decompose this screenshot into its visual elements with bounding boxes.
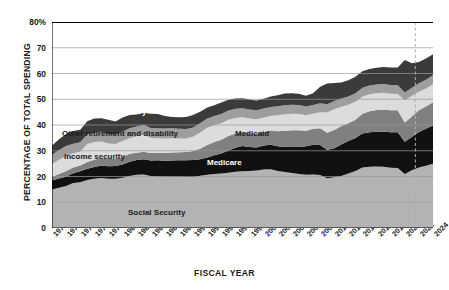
series-label-medicare: Medicare — [207, 158, 242, 167]
stacked-area-svg — [52, 22, 433, 228]
series-label-other-mandatory: Other mandatory — [82, 107, 146, 116]
series-label-other-retirement: Other retirement and disability — [62, 129, 178, 138]
x-tick-label-2024: 2024 — [432, 220, 449, 238]
y-axis-title: PERCENTAGE OF TOTAL SPENDING — [22, 7, 32, 237]
series-label-social-security: Social Security — [128, 208, 185, 217]
series-label-income-security: Income security — [64, 152, 125, 161]
series-label-medicaid: Medicaid — [235, 129, 269, 138]
chart-figure: PERCENTAGE OF TOTAL SPENDING FISCAL YEAR… — [0, 0, 449, 290]
x-axis-title: FISCAL YEAR — [0, 268, 449, 278]
plot-area — [52, 22, 433, 228]
